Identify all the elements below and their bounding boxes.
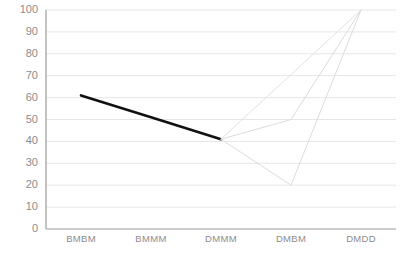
line-chart: 0102030405060708090100 BMBMBMMMDMMMDMBMD… xyxy=(0,0,403,259)
x-tick-dmdd: DMDD xyxy=(326,233,396,244)
x-tick-bmbm: BMBM xyxy=(46,233,116,244)
x-axis-tick-labels: BMBMBMMMDMMMDMBMDMDD xyxy=(0,0,403,259)
x-tick-dmmm: DMMM xyxy=(186,233,256,244)
x-tick-dmbm: DMBM xyxy=(256,233,326,244)
x-tick-bmmm: BMMM xyxy=(116,233,186,244)
